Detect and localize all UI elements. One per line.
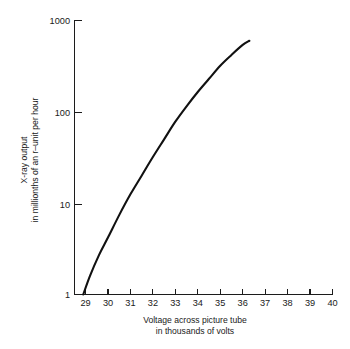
x-axis-title-line2: in thousands of volts	[156, 326, 234, 336]
y-axis-title-line2: in millionths of an r–unit per hour	[30, 98, 40, 223]
y-tick-label-10: 10	[60, 200, 70, 210]
x-tick-label-33: 33	[170, 298, 180, 308]
x-tick-label-29: 29	[80, 298, 90, 308]
y-axis-ticks	[75, 21, 82, 205]
x-tick-label-30: 30	[103, 298, 113, 308]
y-tick-label-1: 1	[65, 290, 70, 300]
xray-output-curve	[83, 41, 249, 295]
chart-figure: 1000 100 10 1 29 30 31 32 33 34 35 36 37…	[0, 0, 350, 349]
x-tick-label-37: 37	[260, 298, 270, 308]
x-tick-label-35: 35	[215, 298, 225, 308]
y-axis-title-line1: X-ray output	[19, 136, 29, 183]
x-tick-label-32: 32	[148, 298, 158, 308]
x-axis-ticks	[86, 289, 333, 295]
x-tick-label-36: 36	[238, 298, 248, 308]
x-axis-title-line1: Voltage across picture tube	[143, 315, 247, 325]
x-tick-label-38: 38	[282, 298, 292, 308]
x-tick-label-34: 34	[193, 298, 203, 308]
xray-output-vs-voltage-chart: 1000 100 10 1 29 30 31 32 33 34 35 36 37…	[0, 0, 350, 349]
x-tick-label-39: 39	[305, 298, 315, 308]
x-tick-label-40: 40	[327, 298, 337, 308]
y-tick-label-100: 100	[55, 108, 70, 118]
x-tick-label-31: 31	[125, 298, 135, 308]
y-tick-label-1000: 1000	[50, 16, 70, 26]
